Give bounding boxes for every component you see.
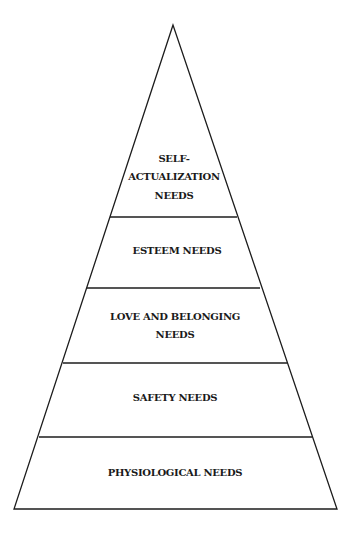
level-label-line: NEEDS [156,329,195,340]
level-physiological: PHYSIOLOGICAL NEEDS [108,467,243,478]
level-label-line: NEEDS [155,190,194,201]
level-love-and-belonging: LOVE AND BELONGING NEEDS [110,311,240,340]
level-label-line: LOVE AND BELONGING [110,311,240,322]
level-label-line: SAFETY NEEDS [133,392,218,403]
level-esteem: ESTEEM NEEDS [133,245,222,256]
needs-pyramid-diagram: SELF- ACTUALIZATION NEEDS ESTEEM NEEDS L… [0,0,350,550]
level-label-line: ACTUALIZATION [127,171,220,182]
level-label-line: SELF- [158,153,189,164]
level-label-line: ESTEEM NEEDS [133,245,222,256]
level-safety: SAFETY NEEDS [133,392,218,403]
level-self-actualization: SELF- ACTUALIZATION NEEDS [127,153,220,201]
level-label-line: PHYSIOLOGICAL NEEDS [108,467,243,478]
